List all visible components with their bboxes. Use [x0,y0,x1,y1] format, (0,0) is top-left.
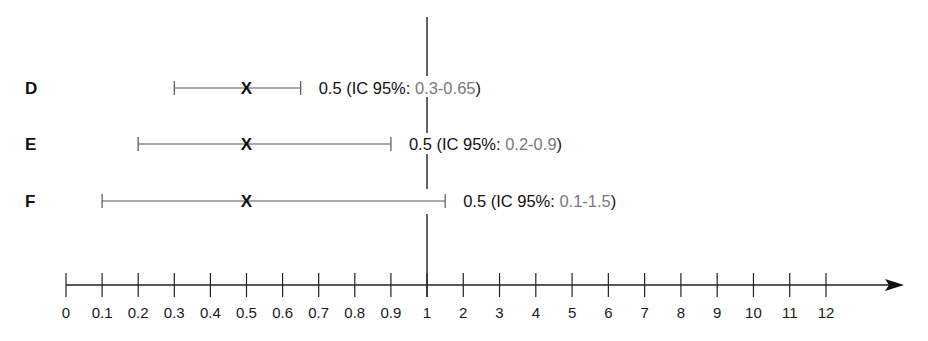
x-tick-label: 5 [568,304,576,321]
x-axis: 00.10.20.30.40.50.60.70.80.9123456789101… [62,273,904,321]
x-tick-label: 0.1 [92,304,113,321]
x-tick-label: 3 [495,304,503,321]
point-estimate-x-icon: X [241,192,253,211]
x-tick-label: 0.9 [380,304,401,321]
x-tick-label: 0.2 [128,304,149,321]
forest-plot: 00.10.20.30.40.50.60.70.80.9123456789101… [0,0,928,341]
row-f: FX0.5 (IC 95%: 0.1-1.5) [25,192,616,211]
estimate-annotation: 0.5 (IC 95%: 0.3-0.65) [319,79,481,97]
estimate-rows: DX0.5 (IC 95%: 0.3-0.65)EX0.5 (IC 95%: 0… [25,79,616,211]
estimate-annotation: 0.5 (IC 95%: 0.2-0.9) [409,135,562,153]
x-tick-label: 2 [459,304,467,321]
point-estimate-x-icon: X [241,79,253,98]
x-tick-label: 9 [713,304,721,321]
x-tick-label: 0.3 [164,304,185,321]
x-tick-label: 0.5 [236,304,257,321]
x-tick-label: 11 [782,304,798,321]
row-label: D [25,79,37,98]
x-tick-label: 0.7 [308,304,329,321]
x-tick-label: 0.6 [272,304,293,321]
x-tick-label: 12 [818,304,835,321]
x-tick-label: 4 [532,304,540,321]
x-tick-label: 8 [677,304,685,321]
point-estimate-x-icon: X [241,135,253,154]
x-tick-label: 0.4 [200,304,221,321]
x-tick-label: 0.8 [344,304,365,321]
estimate-annotation: 0.5 (IC 95%: 0.1-1.5) [463,192,616,210]
row-d: DX0.5 (IC 95%: 0.3-0.65) [25,79,481,98]
x-tick-label: 6 [604,304,612,321]
x-tick-label: 0 [62,304,70,321]
row-e: EX0.5 (IC 95%: 0.2-0.9) [25,135,562,154]
row-label: E [25,135,36,154]
x-tick-label: 1 [423,304,431,321]
x-tick-label: 10 [745,304,762,321]
x-tick-label: 7 [640,304,648,321]
row-label: F [25,192,35,211]
